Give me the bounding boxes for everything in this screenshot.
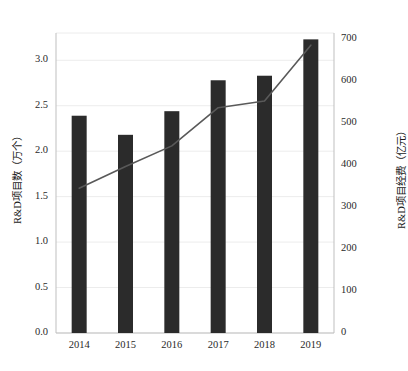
x-tick-label: 2016 <box>149 339 195 350</box>
right-tick-label: 500 <box>341 116 381 127</box>
x-tick-label: 2015 <box>103 339 149 350</box>
right-tick-label: 100 <box>341 284 381 295</box>
left-tick-label: 1.5 <box>14 190 48 201</box>
line-series <box>79 45 311 188</box>
left-tick-label: 2.5 <box>14 99 48 110</box>
left-tick-label: 0.0 <box>14 326 48 337</box>
x-tick-label: 2017 <box>195 339 241 350</box>
left-tick-label: 0.5 <box>14 281 48 292</box>
x-tick-label: 2019 <box>288 339 334 350</box>
right-tick-label: 600 <box>341 74 381 85</box>
bar-2019 <box>303 39 318 333</box>
bar-2014 <box>72 116 87 333</box>
right-axis-title: R&D项目经费（亿元） <box>393 108 408 248</box>
left-tick-label: 2.0 <box>14 144 48 155</box>
right-tick-label: 400 <box>341 158 381 169</box>
left-tick-label: 3.0 <box>14 53 48 64</box>
right-tick-label: 300 <box>341 200 381 211</box>
x-tick-label: 2018 <box>242 339 288 350</box>
bar-2016 <box>164 111 179 333</box>
right-tick-label: 200 <box>341 242 381 253</box>
left-axis-title: R&D项目数（万个） <box>9 118 24 238</box>
bar-2018 <box>257 76 272 333</box>
x-tick-label: 2014 <box>56 339 102 350</box>
right-tick-label: 0 <box>341 326 381 337</box>
left-tick-label: 1.0 <box>14 235 48 246</box>
bar-2017 <box>211 80 226 333</box>
right-tick-label: 700 <box>341 32 381 43</box>
